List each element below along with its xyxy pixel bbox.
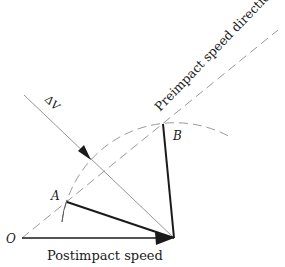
vector-a-line: [67, 202, 174, 238]
impact-vector-diagram: O A B ΔV Preimpact speed direction Posti…: [0, 0, 285, 267]
arc-tick-a: [62, 200, 67, 222]
delta-v-arrowhead-icon: [78, 145, 91, 160]
label-point-a: A: [50, 189, 60, 203]
delta-v-line: [24, 95, 174, 238]
label-delta-v: ΔV: [42, 93, 63, 114]
preimpact-direction-line: [22, 30, 278, 238]
radius-arc: [62, 123, 232, 222]
label-postimpact-speed: Postimpact speed: [47, 248, 163, 263]
label-origin: O: [6, 232, 16, 246]
label-point-b: B: [172, 129, 182, 143]
label-preimpact-direction: Preimpact speed direction: [151, 0, 278, 114]
